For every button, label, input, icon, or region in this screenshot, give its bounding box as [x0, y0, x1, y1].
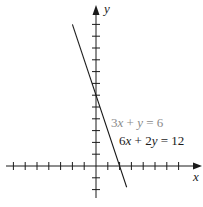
equation-label-3x-plus-y: 3x + y = 6	[111, 115, 163, 131]
equation-label-6x-plus-2y: 6x + 2y = 12	[119, 133, 184, 149]
x-axis-label: x	[193, 169, 199, 185]
y-axis-label: y	[104, 1, 110, 17]
equation-line	[72, 24, 126, 187]
coordinate-plane	[0, 0, 203, 207]
x-axis	[6, 162, 196, 170]
y-axis-arrow-icon	[93, 5, 100, 15]
